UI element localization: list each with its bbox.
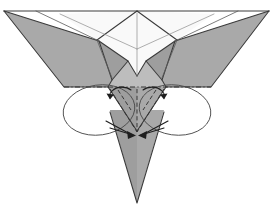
origami-diagram-figure: Origami folding step diagram Symmetric f… [0, 0, 273, 210]
origami-svg-canvas: Origami folding step diagram Symmetric f… [0, 0, 273, 210]
